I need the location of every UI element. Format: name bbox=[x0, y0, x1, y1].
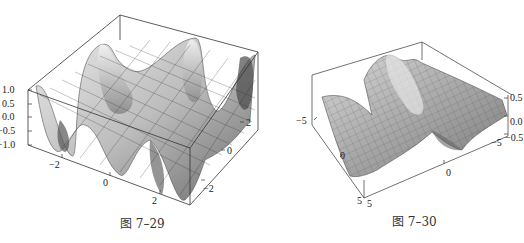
z-tick-label: 0.0 bbox=[2, 112, 15, 122]
y-tick-label: 2 bbox=[246, 118, 251, 128]
y-tick-label: 0 bbox=[227, 146, 232, 156]
z-tick-label: −0.5 bbox=[505, 133, 523, 143]
z-tick-label: 0.0 bbox=[510, 117, 523, 127]
y-tick-label: −5 bbox=[491, 138, 502, 148]
surface-plot-7-29 bbox=[0, 0, 262, 243]
x-tick-label: −5 bbox=[296, 116, 307, 126]
z-tick-label: −0.5 bbox=[0, 126, 15, 136]
x-tick-label: 5 bbox=[357, 196, 362, 206]
figure-caption: 图 7–30 bbox=[392, 212, 437, 229]
x-tick-label: 0 bbox=[103, 178, 108, 188]
x-tick-label: 0 bbox=[340, 151, 345, 161]
z-tick-label: 0.5 bbox=[2, 99, 15, 109]
figure-caption: 图 7–29 bbox=[120, 214, 165, 231]
figure-7-29: 1.0 0.5 0.0 −0.5 −1.0 −2 0 2 2 0 −2 图 7–… bbox=[0, 0, 262, 243]
z-tick-label: 0.5 bbox=[510, 93, 523, 103]
x-tick-label: 2 bbox=[152, 196, 157, 206]
x-tick-label: −2 bbox=[49, 160, 60, 170]
z-tick-label: −1.0 bbox=[0, 140, 15, 150]
figure-7-30: 0.5 0.0 −0.5 −5 0 5 −5 0 5 图 7–30 bbox=[262, 0, 524, 243]
z-tick-label: 1.0 bbox=[2, 85, 15, 95]
y-tick-label: 5 bbox=[367, 199, 372, 209]
y-tick-label: 0 bbox=[446, 168, 451, 178]
y-tick-label: −2 bbox=[203, 184, 214, 194]
